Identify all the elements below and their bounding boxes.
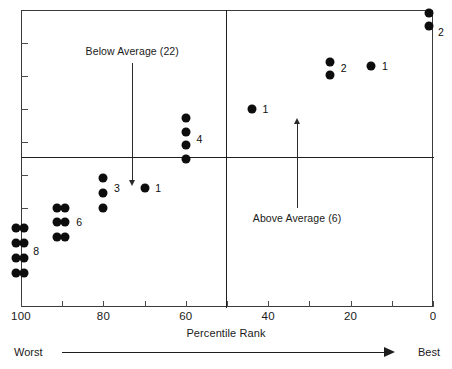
cluster-count-label: 6 [76, 216, 82, 228]
data-point [99, 203, 108, 212]
cluster-count-label: 3 [114, 182, 120, 194]
quadrant-divider-horizontal [21, 157, 434, 158]
data-point [326, 57, 335, 66]
scale-bar-left-label: Worst [14, 346, 43, 358]
annotation-arrow-line [132, 63, 133, 180]
data-point [181, 154, 190, 163]
x-axis-tick [62, 301, 63, 307]
annotation-label: Below Average (22) [86, 45, 179, 57]
data-point [424, 8, 433, 17]
x-axis-tick [351, 301, 352, 307]
x-axis-tick [186, 301, 187, 307]
data-point [181, 141, 190, 150]
cluster-count-label: 1 [155, 182, 161, 194]
data-point [247, 105, 256, 114]
data-point [11, 253, 20, 262]
x-axis-tick [103, 301, 104, 307]
y-axis-tick [21, 208, 28, 209]
x-axis-tick-label: 40 [262, 310, 275, 322]
data-point [19, 239, 28, 248]
data-point [11, 239, 20, 248]
y-axis-tick [21, 109, 28, 110]
annotation-arrow-line [297, 123, 298, 208]
scale-bar-arrow-icon [384, 347, 395, 357]
y-axis-tick [21, 142, 28, 143]
plot-frame [21, 10, 433, 307]
cluster-count-label: 2 [341, 62, 347, 74]
x-axis-tick-label: 60 [179, 310, 192, 322]
data-point [53, 203, 62, 212]
data-point [326, 71, 335, 80]
data-point [99, 173, 108, 182]
cluster-count-label: 1 [382, 60, 388, 72]
annotation-arrow-head-icon [129, 180, 135, 186]
cluster-count-label: 1 [262, 103, 268, 115]
annotation-label: Above Average (6) [253, 212, 341, 224]
x-axis-tick-label: 0 [430, 310, 437, 322]
data-point [53, 218, 62, 227]
data-point [140, 184, 149, 193]
x-axis-tick-label: 80 [97, 310, 110, 322]
x-axis-tick [227, 301, 228, 307]
data-point [11, 224, 20, 233]
scale-bar: Worst Best [0, 343, 452, 363]
x-axis-tick [268, 301, 269, 307]
data-point [99, 188, 108, 197]
scatter-chart: 100806040200 Percentile Rank 863141212 B… [0, 0, 452, 369]
data-point [424, 22, 433, 31]
x-axis-tick [21, 301, 22, 307]
data-point [61, 233, 70, 242]
quadrant-divider-vertical [226, 10, 227, 308]
data-point [367, 62, 376, 71]
data-point [19, 224, 28, 233]
data-point [181, 114, 190, 123]
y-axis-tick [21, 175, 28, 176]
x-axis-tick [309, 301, 310, 307]
x-axis-tick-label: 20 [344, 310, 357, 322]
data-point [61, 203, 70, 212]
data-point [19, 253, 28, 262]
annotation-arrow-head-icon [294, 118, 300, 124]
x-axis-title: Percentile Rank [0, 327, 452, 339]
scale-bar-line [62, 352, 384, 353]
x-axis-tick [392, 301, 393, 307]
cluster-count-label: 8 [33, 245, 39, 257]
cluster-count-label: 4 [197, 133, 203, 145]
data-point [53, 233, 62, 242]
data-point [11, 268, 20, 277]
scale-bar-right-label: Best [418, 346, 440, 358]
x-axis-tick [433, 301, 434, 307]
x-axis-tick [145, 301, 146, 307]
data-point [19, 268, 28, 277]
data-point [61, 218, 70, 227]
cluster-count-label: 2 [438, 26, 444, 38]
data-point [181, 127, 190, 136]
y-axis-tick [21, 76, 28, 77]
y-axis-tick [21, 43, 28, 44]
x-axis-tick-label: 100 [11, 310, 31, 322]
